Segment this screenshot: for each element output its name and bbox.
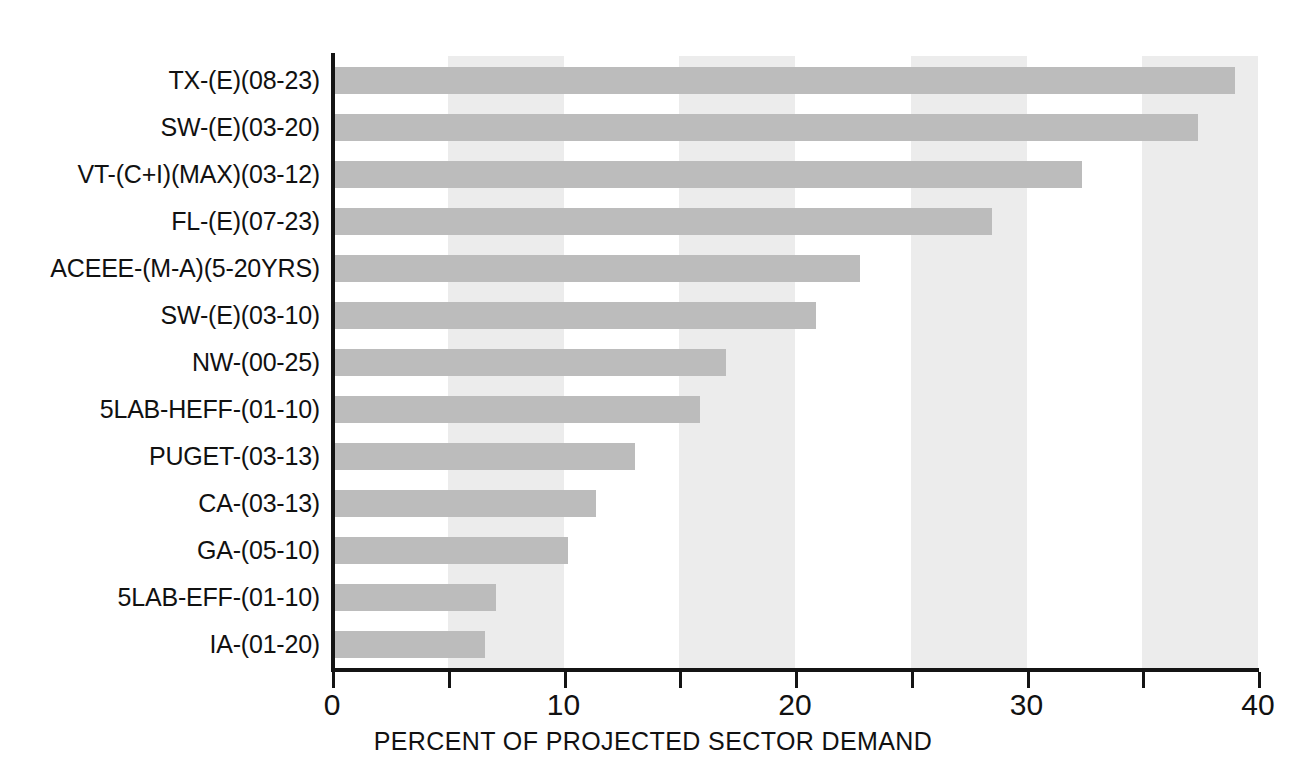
x-axis-tick [911, 672, 914, 688]
x-axis-tick [448, 672, 451, 688]
bar-row [332, 161, 1258, 188]
category-label: NW-(00-25) [192, 349, 320, 376]
y-axis-line [331, 53, 335, 672]
category-label: PUGET-(03-13) [149, 443, 320, 470]
bar [332, 302, 816, 329]
bar-row [332, 255, 1258, 282]
bar [332, 349, 726, 376]
bar-row [332, 490, 1258, 517]
category-label: IA-(01-20) [209, 631, 320, 658]
x-tick-label: 0 [272, 688, 392, 722]
category-label: TX-(E)(08-23) [168, 67, 320, 94]
bar-row [332, 349, 1258, 376]
x-axis-title: PERCENT OF PROJECTED SECTOR DEMAND [0, 727, 1306, 756]
x-tick-label: 20 [735, 688, 855, 722]
x-tick-label: 40 [1198, 688, 1306, 722]
bar [332, 67, 1235, 94]
bar-row [332, 584, 1258, 611]
x-axis-tick [795, 672, 798, 688]
category-label: GA-(05-10) [197, 537, 320, 564]
bar-row [332, 537, 1258, 564]
bar [332, 396, 700, 423]
category-label: 5LAB-HEFF-(01-10) [100, 396, 320, 423]
category-label: SW-(E)(03-20) [161, 114, 320, 141]
x-axis-tick [332, 672, 335, 688]
bar-row [332, 114, 1258, 141]
category-label: 5LAB-EFF-(01-10) [118, 584, 320, 611]
category-label: FL-(E)(07-23) [171, 208, 320, 235]
category-label: VT-(C+I)(MAX)(03-12) [77, 161, 320, 188]
x-tick-label: 10 [504, 688, 624, 722]
plot-area [332, 57, 1258, 668]
bars-layer [332, 57, 1258, 668]
bar [332, 255, 860, 282]
bar-row [332, 396, 1258, 423]
bar-row [332, 631, 1258, 658]
category-label: SW-(E)(03-10) [161, 302, 320, 329]
bar [332, 490, 596, 517]
bar-row [332, 208, 1258, 235]
bar-row [332, 443, 1258, 470]
bar [332, 537, 568, 564]
x-tick-label: 30 [967, 688, 1087, 722]
bar-row [332, 67, 1258, 94]
bar [332, 161, 1082, 188]
x-axis-tick [679, 672, 682, 688]
x-axis-tick [1142, 672, 1145, 688]
bar [332, 584, 496, 611]
bar-row [332, 302, 1258, 329]
bar [332, 114, 1198, 141]
category-label: ACEEE-(M-A)(5-20YRS) [50, 255, 320, 282]
bar [332, 443, 635, 470]
bar-chart: 010203040 TX-(E)(08-23)SW-(E)(03-20)VT-(… [0, 0, 1306, 763]
x-axis-tick [1027, 672, 1030, 688]
bar [332, 631, 485, 658]
category-label: CA-(03-13) [198, 490, 320, 517]
x-axis-tick [1258, 672, 1261, 688]
bar [332, 208, 992, 235]
x-axis-tick [564, 672, 567, 688]
